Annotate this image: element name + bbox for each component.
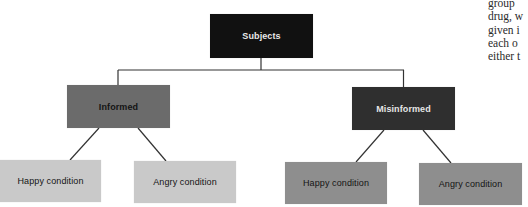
informed-angry-condition-node: Angry condition — [134, 161, 236, 203]
body-text-line: each o — [488, 37, 528, 50]
subjects-node: Subjects — [210, 14, 313, 58]
condition-label: Happy condition — [17, 176, 83, 186]
informed-label: Informed — [99, 102, 138, 112]
informed-happy-condition-node: Happy condition — [0, 160, 101, 202]
body-text-line: given i — [488, 24, 528, 37]
body-text-line: either t — [488, 50, 528, 63]
condition-label: Happy condition — [303, 178, 369, 188]
misinformed-happy-condition-node: Happy condition — [285, 162, 387, 204]
informed-group-node: Informed — [67, 85, 170, 128]
misinformed-angry-condition-node: Angry condition — [419, 163, 522, 205]
condition-label: Angry condition — [439, 179, 503, 189]
subjects-label: Subjects — [242, 31, 280, 41]
body-text-line: group — [488, 0, 528, 10]
condition-label: Angry condition — [153, 177, 217, 187]
misinformed-group-node: Misinformed — [352, 87, 455, 130]
cropped-body-text: group drug, w given i each o either t — [488, 0, 528, 63]
body-text-line: drug, w — [488, 10, 528, 23]
misinformed-label: Misinformed — [376, 104, 431, 114]
